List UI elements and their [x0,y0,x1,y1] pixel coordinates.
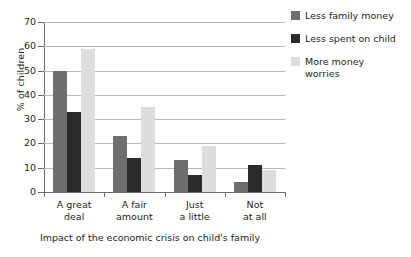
bar-g2-s1 [188,175,202,192]
bar-g3-s2 [262,170,276,192]
bar-g1-s1 [127,158,141,192]
y-tick-label-10: 10 [0,163,36,173]
legend-label-2: More money worries [305,56,364,79]
legend-label-1: Less spent on child [305,33,396,45]
legend-item-1: Less spent on child [291,33,396,45]
bar-g2-s2 [202,146,216,192]
bar-g0-s1 [67,112,81,192]
y-tick-label-20: 20 [0,138,36,148]
legend-item-2: More money worries [291,56,364,79]
bar-g2-s0 [174,160,188,192]
bar-g1-s0 [113,136,127,192]
x-axis-title: Impact of the economic crisis on child's… [0,232,300,243]
legend-swatch-icon-1 [291,34,300,43]
x-tick-3 [225,192,226,197]
x-group-label-2: Just a little [165,199,225,222]
bar-g3-s1 [248,165,262,192]
y-tick-label-30: 30 [0,114,36,124]
x-group-label-1: A fair amount [104,199,164,222]
bar-g0-s2 [81,49,95,192]
x-tick-2 [165,192,166,197]
x-group-label-0: A great deal [44,199,104,222]
y-tick-label-0: 0 [0,187,36,197]
bars-layer [44,22,285,192]
x-tick-1 [104,192,105,197]
x-group-label-3: Not at all [225,199,285,222]
x-tick-4 [285,192,286,197]
legend-swatch-icon-0 [291,11,300,20]
bar-g1-s2 [141,107,155,192]
bar-g3-s0 [234,182,248,192]
x-tick-0 [44,192,45,197]
bar-chart: % of children 010203040506070 A great de… [0,0,411,257]
legend-label-0: Less family money [305,10,394,22]
legend-swatch-icon-2 [291,57,300,66]
y-tick-label-60: 60 [0,41,36,51]
legend-item-0: Less family money [291,10,394,22]
y-tick-label-40: 40 [0,90,36,100]
y-tick-label-50: 50 [0,66,36,76]
y-tick-label-70: 70 [0,17,36,27]
bar-g0-s0 [53,71,67,192]
